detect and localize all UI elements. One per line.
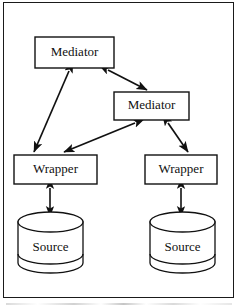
wrapper-right-label: Wrapper <box>159 161 205 176</box>
mediator-top-label: Mediator <box>51 44 99 59</box>
source-left-label: Source <box>32 239 68 254</box>
node-mediator-middle[interactable]: Mediator <box>114 92 189 120</box>
edge-mediator-top-wrapper-left <box>34 71 69 152</box>
node-source-left[interactable]: Source <box>18 212 83 273</box>
node-wrapper-left[interactable]: Wrapper <box>14 155 97 184</box>
source-right-label: Source <box>164 239 200 254</box>
node-layer: Mediator Mediator Wrapper Wrapper <box>14 37 217 273</box>
edge-mediator-middle-wrapper-right <box>168 123 188 152</box>
wrapper-left-label: Wrapper <box>33 161 79 176</box>
node-mediator-top[interactable]: Mediator <box>35 37 114 68</box>
source-left-cylinder-top <box>18 212 83 232</box>
mediator-middle-label: Mediator <box>128 97 176 112</box>
edge-mediator-middle-wrapper-left <box>64 123 135 152</box>
scan-artifact-line <box>6 303 232 305</box>
figure-root: Mediator Mediator Wrapper Wrapper <box>0 0 239 307</box>
node-source-right[interactable]: Source <box>150 212 215 273</box>
source-right-cylinder-top <box>150 212 215 232</box>
edge-mediator-top-mediator-middle <box>108 70 147 90</box>
architecture-diagram: Mediator Mediator Wrapper Wrapper <box>0 0 239 307</box>
node-wrapper-right[interactable]: Wrapper <box>145 155 217 184</box>
